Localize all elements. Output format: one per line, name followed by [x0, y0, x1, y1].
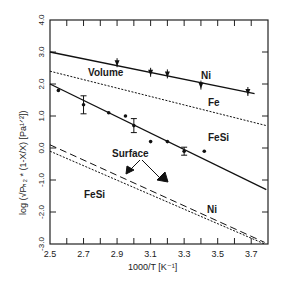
- y-tick-label: -1.0: [37, 173, 46, 187]
- surface-arrows: [126, 160, 168, 182]
- label-volume: Volume: [88, 67, 124, 78]
- series-layer: [50, 52, 266, 244]
- series-line: [50, 151, 265, 244]
- label-fesi-surface: FeSi: [84, 189, 105, 200]
- data-point: [202, 149, 206, 153]
- label-surface: Surface: [112, 148, 149, 159]
- data-point: [149, 140, 153, 144]
- label-fe: Fe: [208, 97, 220, 108]
- y-tick-label: 3.0: [37, 46, 46, 58]
- x-tick-label: 2.7: [77, 249, 90, 259]
- label-fesi-volume: FeSi: [208, 132, 229, 143]
- y-tick-label: 0.0: [37, 142, 46, 154]
- x-axis-tick-labels: 2.52.72.93.13.33.53.7: [44, 249, 258, 259]
- x-tick-label: 2.9: [111, 249, 124, 259]
- data-point: [124, 114, 128, 118]
- data-point: [57, 89, 61, 93]
- series-line: [50, 71, 266, 125]
- series-line: [50, 52, 255, 94]
- y-axis-title: log (√Pₕ₂ * (1-X/X) [Pa¹ᐟ²]): [18, 111, 28, 215]
- y-tick-label: 1.0: [37, 110, 46, 122]
- y-axis-tick-labels: -3.0-2.0-1.00.01.02.03.04.0: [37, 14, 46, 251]
- label-ni-volume: Ni: [201, 70, 211, 81]
- data-point: [107, 111, 111, 115]
- x-tick-label: 3.5: [211, 249, 224, 259]
- series-line: [50, 145, 265, 243]
- x-tick-label: 3.7: [245, 249, 258, 259]
- label-ni-surface: Ni: [207, 204, 217, 215]
- x-tick-label: 3.3: [178, 249, 191, 259]
- arrhenius-chart: 2.52.72.93.13.33.53.7 -3.0-2.0-1.00.01.0…: [0, 0, 281, 281]
- y-tick-label: 4.0: [37, 14, 46, 26]
- y-tick-label: -2.0: [37, 205, 46, 219]
- series-line: [50, 84, 266, 190]
- y-axis-ticks: [50, 52, 268, 212]
- plot-frame: [50, 20, 268, 244]
- data-point: [166, 140, 170, 144]
- y-tick-label: -3.0: [37, 237, 46, 251]
- x-tick-label: 3.1: [144, 249, 157, 259]
- y-tick-label: 2.0: [37, 78, 46, 90]
- x-axis-title: 1000/T [K⁻¹]: [128, 262, 177, 272]
